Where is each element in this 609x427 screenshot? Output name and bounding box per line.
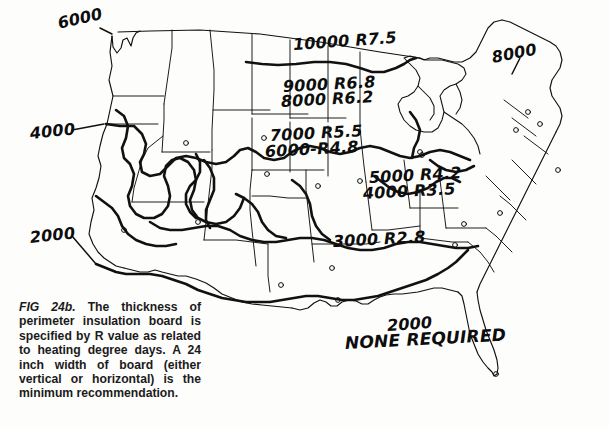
figure-caption: FIG 24b. The thickness of perimeter insu…: [19, 300, 201, 401]
great-lakes: [398, 56, 480, 154]
contour-line-interior-g: [410, 112, 420, 158]
figure-caption-text: The thickness of perimeter insulation bo…: [19, 300, 201, 400]
contour-line-4000-5000: [150, 222, 478, 250]
figure-24b: 6000 4000 2000 8000 10000 R7.5 9000 R6.8…: [0, 0, 609, 427]
contour-line-10000: [246, 58, 416, 72]
contour-line-2000-gulf: [96, 250, 468, 302]
contour-line-3000-west: [96, 196, 176, 246]
figure-caption-label: FIG 24b.: [19, 300, 76, 314]
